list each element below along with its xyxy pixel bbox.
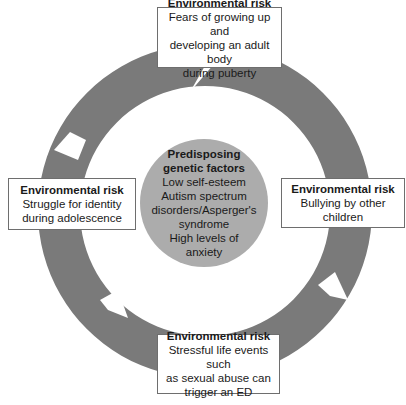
- box-line: as sexual abuse can: [161, 371, 276, 385]
- center-item: High levels of: [169, 231, 238, 245]
- center-item: Low self-esteem: [162, 175, 246, 189]
- box-line: Struggle for identity: [12, 197, 132, 211]
- center-item: disorders/Asperger's: [151, 203, 256, 217]
- box-line: during adolescence: [12, 211, 132, 225]
- box-line: trigger an ED: [161, 385, 276, 399]
- box-title: Environmental risk: [285, 182, 401, 196]
- box-line: during puberty: [161, 66, 278, 80]
- center-circle-predisposing-factors: Predisposing genetic factors Low self-es…: [140, 139, 268, 267]
- center-item: anxiety: [186, 245, 222, 259]
- box-title: Environmental risk: [161, 0, 278, 10]
- box-line: Stressful life events such: [161, 343, 276, 371]
- center-item: syndrome: [179, 217, 230, 231]
- box-line: Fears of growing up and: [161, 10, 278, 38]
- box-line: developing an adult body: [161, 38, 278, 66]
- box-title: Environmental risk: [12, 183, 132, 197]
- box-line: Bullying by other: [285, 196, 401, 210]
- box-top-environmental-risk: Environmental risk Fears of growing up a…: [157, 7, 282, 68]
- box-bottom-environmental-risk: Environmental risk Stressful life events…: [157, 334, 280, 394]
- box-line: children: [285, 210, 401, 224]
- box-right-environmental-risk: Environmental risk Bullying by other chi…: [281, 178, 405, 228]
- box-title: Environmental risk: [161, 329, 276, 343]
- center-title-line-2: genetic factors: [163, 161, 245, 175]
- center-item: Autism spectrum: [161, 189, 247, 203]
- box-left-environmental-risk: Environmental risk Struggle for identity…: [8, 178, 136, 230]
- center-title-line-1: Predisposing: [168, 147, 241, 161]
